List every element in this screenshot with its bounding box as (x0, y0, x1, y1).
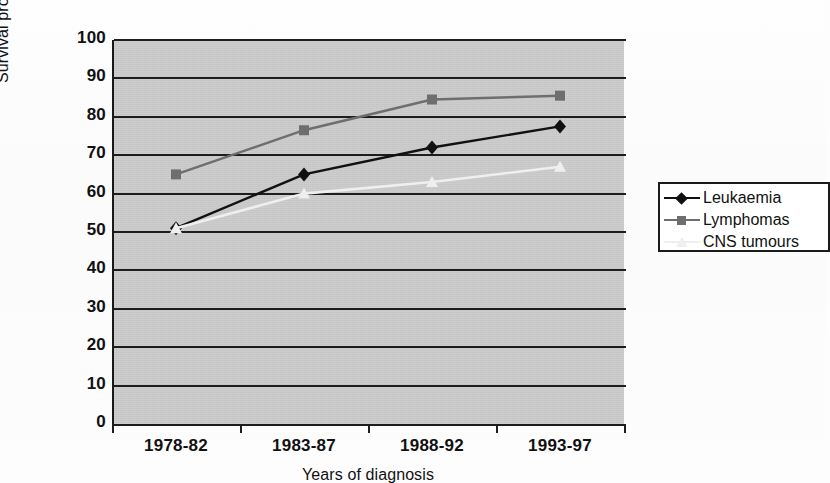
x-tick-mark (368, 424, 370, 433)
legend-item-lymphomas[interactable]: Lymphomas (664, 209, 828, 231)
diamond-marker-icon (675, 192, 688, 205)
gridline (114, 77, 626, 79)
y-tick-label: 40 (52, 258, 106, 278)
triangle-marker-icon (676, 237, 688, 247)
x-tick-label: 1978-82 (106, 436, 246, 456)
x-tick-mark (624, 424, 626, 433)
y-tick-label: 30 (52, 297, 106, 317)
y-tick-label: 80 (52, 105, 106, 125)
legend-label: Leukaemia (703, 189, 781, 207)
x-tick-label: 1983-87 (234, 436, 374, 456)
square-marker-icon (677, 216, 686, 225)
y-axis-title: Survival probability (%) (0, 0, 12, 120)
gridline (114, 116, 626, 118)
y-tick-label: 60 (52, 182, 106, 202)
x-tick-mark (112, 424, 114, 433)
gridline (114, 154, 626, 156)
legend: LeukaemiaLymphomasCNS tumours (658, 182, 830, 252)
y-tick-label: 70 (52, 143, 106, 163)
y-axis-ticks: 1009080706050403020100 (40, 0, 106, 483)
y-tick-label: 100 (52, 28, 106, 48)
x-axis-title: Years of diagnosis (112, 466, 624, 483)
legend-item-cns-tumours[interactable]: CNS tumours (664, 231, 828, 253)
legend-swatch (664, 212, 700, 228)
plot-area (112, 40, 624, 424)
y-tick-label: 0 (52, 412, 106, 432)
gridline (114, 385, 626, 387)
gridline (114, 193, 626, 195)
legend-swatch (664, 234, 700, 250)
y-tick-label: 50 (52, 220, 106, 240)
legend-swatch (664, 190, 700, 206)
legend-label: CNS tumours (703, 233, 799, 251)
x-tick-label: 1993-97 (490, 436, 630, 456)
legend-item-leukaemia[interactable]: Leukaemia (664, 187, 828, 209)
x-tick-mark (496, 424, 498, 433)
x-tick-label: 1988-92 (362, 436, 502, 456)
gridline (114, 308, 626, 310)
y-tick-label: 90 (52, 66, 106, 86)
legend-label: Lymphomas (703, 211, 790, 229)
y-tick-label: 20 (52, 335, 106, 355)
gridline (114, 269, 626, 271)
gridline (114, 231, 626, 233)
x-tick-mark (240, 424, 242, 433)
gridline (114, 39, 626, 41)
y-tick-label: 10 (52, 374, 106, 394)
gridline (114, 346, 626, 348)
